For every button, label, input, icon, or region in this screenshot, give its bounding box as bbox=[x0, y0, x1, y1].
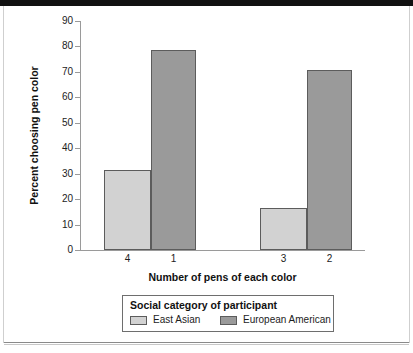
bottom-border-rule bbox=[4, 342, 409, 343]
y-tick-mark bbox=[75, 225, 80, 226]
y-tick-mark bbox=[75, 148, 80, 149]
x-tick-label-2: 2 bbox=[327, 254, 333, 264]
x-tick-label-4: 4 bbox=[125, 254, 131, 264]
x-axis-line bbox=[80, 250, 365, 251]
x-axis-title: Number of pens of each color bbox=[80, 271, 365, 283]
right-border-rule bbox=[409, 6, 410, 343]
y-tick-mark bbox=[75, 199, 80, 200]
plot-area: 9080706050403020100 4132 bbox=[80, 21, 365, 250]
legend-item-european-american: European American bbox=[220, 315, 331, 325]
y-tick-mark bbox=[75, 21, 80, 22]
legend-box: Social category of participant East Asia… bbox=[122, 295, 334, 332]
y-tick-label: 50 bbox=[62, 118, 73, 128]
y-tick-mark bbox=[75, 97, 80, 98]
x-tick-label-1: 1 bbox=[171, 254, 177, 264]
left-border-rule bbox=[3, 6, 4, 343]
y-axis-title: Percent choosing pen color bbox=[27, 21, 41, 250]
bottom-border-rule-secondary bbox=[4, 344, 409, 345]
y-tick-label: 40 bbox=[62, 143, 73, 153]
top-black-band bbox=[0, 0, 413, 6]
legend-swatch-east-asian bbox=[130, 316, 147, 325]
y-tick-label: 60 bbox=[62, 92, 73, 102]
bar-3 bbox=[260, 208, 307, 250]
y-tick-label: 90 bbox=[62, 16, 73, 26]
y-tick-label: 20 bbox=[62, 194, 73, 204]
y-tick-mark bbox=[75, 123, 80, 124]
figure-canvas: Percent choosing pen color Number of pen… bbox=[0, 0, 413, 353]
bar-1 bbox=[151, 50, 196, 250]
legend-label-european-american: European American bbox=[243, 315, 331, 325]
legend-item-east-asian: East Asian bbox=[130, 315, 200, 325]
y-tick-mark bbox=[75, 174, 80, 175]
y-tick-label: 0 bbox=[67, 245, 73, 255]
y-axis-line bbox=[80, 21, 81, 250]
y-tick-mark bbox=[75, 72, 80, 73]
x-tick-label-3: 3 bbox=[281, 254, 287, 264]
legend-title: Social category of participant bbox=[130, 299, 277, 311]
bar-2 bbox=[307, 70, 352, 250]
y-tick-mark bbox=[75, 46, 80, 47]
y-tick-mark bbox=[75, 250, 80, 251]
y-tick-label: 30 bbox=[62, 169, 73, 179]
y-tick-label: 70 bbox=[62, 67, 73, 77]
bar-4 bbox=[104, 170, 151, 250]
y-tick-label: 80 bbox=[62, 41, 73, 51]
legend-swatch-european-american bbox=[220, 316, 237, 325]
legend-label-east-asian: East Asian bbox=[153, 315, 200, 325]
y-tick-label: 10 bbox=[62, 220, 73, 230]
